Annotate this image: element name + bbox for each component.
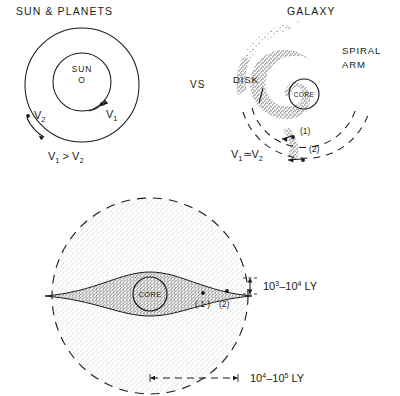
disk-label: DISK [233, 74, 259, 85]
edge-on-galaxy-panel: CORE ( 1 ) (2) 103–104 LY 104–105 LY [40, 196, 318, 396]
galaxy-panel: GALAXY CORE SPIRAL ARM DISK (1) (2) [230, 5, 381, 168]
versus-label: VS [190, 79, 205, 90]
horizontal-dim-arrowhead-right [233, 376, 238, 380]
edge-on-core-label: CORE [139, 290, 162, 299]
galaxy-velocity-relation: V1≃V2 [231, 148, 263, 163]
edge-on-marker-2: (2) [219, 299, 230, 309]
galaxy-marker-1: (1) [300, 126, 311, 136]
outer-orbit-circle [25, 28, 139, 142]
outer-velocity-label: V2 [34, 109, 46, 124]
vertical-dimension: 103–104 LY [243, 278, 318, 294]
sun-label: SUN [72, 64, 92, 74]
sun-symbol-glyph: O [78, 75, 85, 85]
sun-planets-title: SUN & PLANETS [16, 5, 113, 17]
edge-on-star-2-dot [225, 289, 229, 293]
outer-planet-dot [26, 114, 30, 118]
spiral-arm-label-line2: ARM [342, 59, 366, 70]
galaxy-title: GALAXY [287, 5, 336, 17]
edge-on-marker-1: ( 1 ) [195, 299, 210, 309]
vertical-dim-arrowhead-up [248, 278, 253, 282]
astronomy-rotation-diagram: SUN & PLANETS SUN O V1 V2 V1 > V2 VS GAL… [0, 0, 400, 396]
horizontal-dimension-label: 104–105 LY [250, 372, 305, 384]
vertical-dimension-label: 103–104 LY [263, 280, 318, 292]
galaxy-star-2-arrowhead [288, 158, 293, 163]
edge-on-star-1-dot [201, 291, 205, 295]
galaxy-core-label: CORE [294, 91, 315, 98]
figure-canvas: SUN & PLANETS SUN O V1 V2 V1 > V2 VS GAL… [0, 0, 400, 396]
inner-velocity-label: V1 [106, 108, 118, 123]
sun-planets-velocity-relation: V1 > V2 [48, 150, 84, 165]
spiral-arm-label-line1: SPIRAL [342, 45, 381, 56]
galaxy-marker-2: (2) [309, 144, 320, 154]
sun-planets-panel: SUN & PLANETS SUN O V1 V2 V1 > V2 [16, 5, 139, 165]
